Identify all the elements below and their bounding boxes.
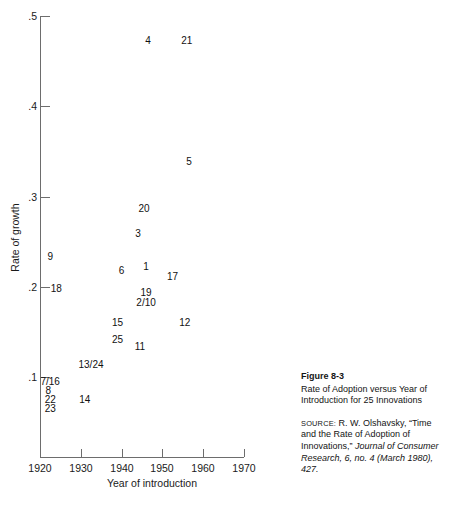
data-point-label: 25: [112, 335, 123, 345]
figure-caption: Figure 8-3 Rate of Adoption versus Year …: [301, 371, 444, 476]
x-tick-label: 1930: [61, 463, 101, 474]
x-tick-label: 1950: [142, 463, 182, 474]
data-point-label: 4: [145, 36, 151, 46]
data-point-label: 18: [51, 284, 62, 294]
x-tick-label: 1940: [102, 463, 142, 474]
y-tick-mark: [41, 16, 50, 17]
caption-description: Rate of Adoption versus Year of Introduc…: [301, 384, 444, 407]
y-tick-label: .4: [11, 101, 37, 112]
caption-figure-number: Figure 8-3: [301, 371, 444, 383]
scatter-plot: .5.4.3.2.1 192019301940195019601970 4215…: [0, 0, 280, 505]
data-point-label: 13/24: [78, 360, 103, 370]
data-point-label: 20: [138, 204, 149, 214]
x-axis-line: [40, 457, 244, 458]
caption-source: SOURCE: R. W. Olshavsky, “Time and the R…: [301, 418, 444, 476]
source-label: SOURCE:: [301, 419, 336, 428]
y-tick-label-wrap: .5: [0, 11, 37, 22]
x-tick-mark: [40, 449, 41, 457]
x-tick-mark: [122, 449, 123, 457]
y-tick-mark: [41, 287, 50, 288]
data-point-label: 23: [45, 404, 56, 414]
y-tick-label-wrap: .4: [0, 101, 37, 112]
x-tick-label: 1920: [20, 463, 60, 474]
y-axis-line: [40, 16, 41, 457]
data-point-label: 1: [143, 262, 149, 272]
data-point-label: 11: [135, 342, 145, 352]
data-point-label: 17: [167, 272, 178, 282]
x-tick-mark: [81, 449, 82, 457]
y-tick-label: .5: [11, 11, 37, 22]
data-point-label: 14: [79, 395, 90, 405]
y-tick-mark: [41, 106, 50, 107]
y-axis-title: Rate of growth: [10, 183, 21, 293]
data-point-label: 15: [112, 318, 123, 328]
x-tick-mark: [162, 449, 163, 457]
data-point-label: 9: [47, 252, 53, 262]
data-point-label: 12: [179, 318, 190, 328]
data-point-label: 3: [135, 229, 141, 239]
y-tick-label: .1: [11, 372, 37, 383]
data-point-label: 5: [186, 157, 192, 167]
x-tick-mark: [244, 449, 245, 457]
x-tick-label: 1960: [183, 463, 223, 474]
y-tick-mark: [41, 197, 50, 198]
figure-8-3: .5.4.3.2.1 192019301940195019601970 4215…: [0, 0, 450, 505]
x-axis-title: Year of introduction: [62, 478, 242, 489]
data-point-label: 6: [119, 266, 125, 276]
y-tick-label-wrap: .1: [0, 372, 37, 383]
data-point-label: 21: [181, 36, 192, 46]
x-tick-label: 1970: [224, 463, 264, 474]
x-tick-mark: [203, 449, 204, 457]
data-point-label: 2/10: [136, 298, 155, 308]
